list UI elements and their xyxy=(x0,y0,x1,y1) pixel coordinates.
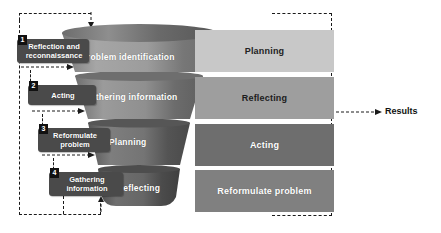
outcome-bar-3-label: Acting xyxy=(250,140,279,150)
arrow-to-results xyxy=(331,108,383,116)
step-callout-2[interactable]: 2 Acting xyxy=(28,85,96,105)
dashed-line-top-left xyxy=(19,13,91,14)
dashed-line-bottom-left xyxy=(19,214,101,215)
step-1-label: Reflection and reconnaissance xyxy=(19,42,89,60)
dashed-line-bottom-right xyxy=(272,215,332,216)
step-3-label: Reformulate problem xyxy=(40,131,110,149)
outcome-bar-4: Reformulate problem xyxy=(195,170,334,212)
outcome-bar-1-label: Planning xyxy=(245,46,285,56)
funnel-label-4: Reflecting xyxy=(117,183,160,193)
step-callout-4[interactable]: 4 Gathering information xyxy=(49,172,123,196)
results-label: Results xyxy=(385,106,418,116)
outcome-bar-2: Reflecting xyxy=(195,77,334,119)
funnel-label-1: Problem identification xyxy=(81,52,175,62)
diagram-canvas: Problem identification Gathering informa… xyxy=(0,0,441,233)
step-callout-3[interactable]: 3 Reformulate problem xyxy=(38,128,110,152)
funnel-label-2: Gathering information xyxy=(84,92,177,102)
step-4-label: Gathering information xyxy=(51,175,123,193)
dashed-line-top-right xyxy=(272,13,332,14)
step-callout-1[interactable]: 1 Reflection and reconnaissance xyxy=(17,39,89,63)
step-2-badge: 2 xyxy=(29,81,38,91)
step-2-label: Acting xyxy=(30,91,96,100)
step-4-badge: 4 xyxy=(50,168,59,178)
outcome-bar-4-label: Reformulate problem xyxy=(217,186,311,196)
step-1-badge: 1 xyxy=(18,35,27,45)
outcome-bar-1: Planning xyxy=(195,30,334,72)
outcome-bar-2-label: Reflecting xyxy=(242,93,288,103)
outcome-bar-3: Acting xyxy=(195,124,334,166)
dashed-line-top-left-tick xyxy=(19,13,20,20)
funnel-label-3: Planning xyxy=(109,137,147,147)
step-3-badge: 3 xyxy=(39,124,48,134)
